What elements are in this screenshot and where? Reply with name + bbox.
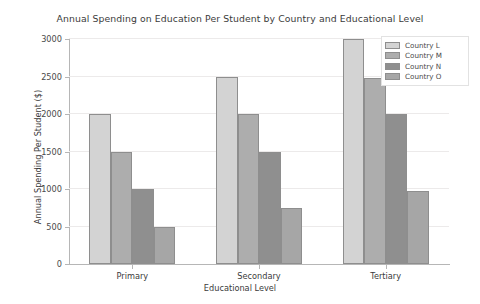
legend-label: Country M: [405, 51, 442, 60]
x-tick-mark: [259, 265, 260, 269]
bar: [281, 208, 303, 264]
bar: [364, 78, 386, 264]
x-axis-label: Educational Level: [0, 283, 480, 293]
bar: [154, 227, 176, 265]
legend-label: Country L: [405, 41, 440, 50]
bar: [132, 189, 154, 264]
y-tick-label: 2000: [41, 109, 62, 119]
bar: [343, 39, 365, 264]
chart-figure: Annual Spending on Education Per Student…: [0, 0, 480, 304]
legend-swatch: [385, 52, 400, 59]
y-tick-label: 2500: [41, 72, 62, 82]
y-tick-mark: [65, 264, 69, 265]
bar: [386, 114, 408, 264]
y-tick-label: 0: [57, 259, 62, 269]
legend-swatch: [385, 42, 400, 49]
legend-item: Country M: [385, 51, 465, 61]
legend-swatch: [385, 63, 400, 70]
legend-item: Country L: [385, 40, 465, 50]
legend-item: Country O: [385, 72, 465, 82]
legend-label: Country O: [405, 72, 442, 81]
y-tick-label: 1500: [41, 147, 62, 157]
bar: [111, 152, 133, 265]
x-tick-label: Secondary: [237, 271, 280, 281]
bar: [407, 191, 429, 265]
y-tick-label: 1000: [41, 184, 62, 194]
x-tick-label: Primary: [117, 271, 149, 281]
chart-legend: Country LCountry MCountry NCountry O: [381, 36, 469, 86]
legend-swatch: [385, 73, 400, 80]
y-tick-label: 500: [46, 222, 62, 232]
legend-item: Country N: [385, 61, 465, 71]
x-tick-mark: [132, 265, 133, 269]
chart-title: Annual Spending on Education Per Student…: [0, 13, 480, 24]
x-tick-label: Tertiary: [370, 271, 401, 281]
bar: [216, 77, 238, 265]
bar: [89, 114, 111, 264]
bar: [259, 152, 281, 265]
legend-label: Country N: [405, 62, 441, 71]
y-tick-label: 3000: [41, 34, 62, 44]
bar: [238, 114, 260, 264]
x-tick-mark: [386, 265, 387, 269]
